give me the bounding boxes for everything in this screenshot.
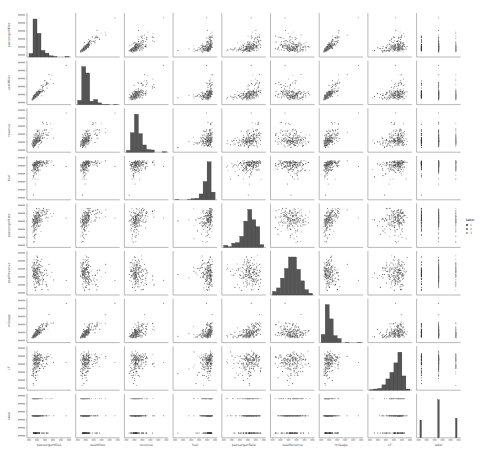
histogram-bar [142, 145, 146, 152]
histogram-bar [374, 389, 378, 390]
subplot [319, 13, 363, 57]
subplot [18, 394, 71, 441]
histogram-bar [37, 33, 41, 57]
x-axis-label: passengerRate [232, 443, 256, 447]
subplot [76, 108, 120, 152]
x-axis-label: revenue [140, 443, 153, 447]
subplot [319, 346, 363, 390]
histogram-bar [236, 243, 240, 248]
subplot [124, 346, 168, 390]
histogram-bar [277, 288, 281, 295]
y-axis-label: passengerMiles [7, 22, 11, 47]
histogram-bar [305, 290, 309, 295]
histogram-bar [207, 162, 211, 200]
subplot [271, 156, 315, 200]
y-axis-label: mileage [7, 314, 11, 327]
histogram-bar [398, 352, 402, 390]
histogram-bar [49, 56, 53, 57]
subplot [319, 61, 363, 105]
subplot [76, 299, 120, 343]
subplot [76, 61, 120, 105]
histogram-bar [203, 182, 207, 200]
subplot [319, 203, 363, 247]
subplot [417, 108, 461, 152]
y-axis-label: seatMiles [7, 75, 11, 90]
subplot [173, 299, 217, 343]
subplot [173, 61, 217, 105]
histogram-bar [329, 319, 333, 343]
subplot [18, 156, 71, 200]
histogram-bar [94, 99, 98, 104]
histogram-bar [130, 133, 134, 152]
subplot [368, 13, 412, 57]
histogram-bar [244, 221, 248, 247]
x-axis-label: passengerMiles [37, 443, 62, 447]
histogram-bar [134, 114, 138, 152]
subplot [271, 108, 315, 152]
subplot [173, 394, 217, 441]
y-axis-label: label [7, 412, 11, 420]
subplot [76, 251, 120, 295]
subplot [319, 251, 363, 295]
x-axis-label: seatRevenue [282, 443, 303, 447]
subplot [18, 299, 71, 343]
histogram-bar [333, 336, 337, 343]
subplot [417, 394, 461, 441]
subplot [222, 61, 266, 105]
histogram-bar [232, 243, 236, 247]
subplot [368, 203, 412, 247]
histogram-bar [297, 269, 301, 295]
histogram-bar [126, 150, 130, 152]
subplot [319, 108, 363, 152]
histogram-bar [240, 236, 244, 247]
subplot [222, 13, 266, 57]
subplot [319, 299, 363, 343]
histogram-bar [394, 363, 398, 390]
subplot [124, 394, 168, 441]
subplot [222, 156, 266, 200]
histogram-bar [224, 245, 228, 247]
subplot [417, 61, 461, 105]
histogram-bar [199, 194, 203, 200]
subplot [124, 156, 168, 200]
subplot [222, 251, 266, 295]
subplot [76, 346, 120, 390]
y-axis-label: seatRevenue [7, 263, 11, 284]
subplot [271, 203, 315, 247]
histogram-bar [321, 334, 325, 342]
x-axis-label: fuel [192, 443, 198, 447]
legend: label 1 2 3 [466, 218, 474, 235]
y-axis-label: passengerRate [7, 213, 11, 237]
histogram-bar [309, 293, 313, 295]
subplot [18, 108, 71, 152]
subplot [18, 61, 71, 105]
subplot [18, 13, 71, 57]
histogram-bar [252, 220, 256, 248]
histogram-bar [438, 400, 440, 438]
subplot [368, 251, 412, 295]
subplot [417, 13, 461, 57]
subplot [18, 203, 71, 247]
histogram-bar [260, 245, 264, 248]
subplot [319, 394, 363, 441]
subplot [18, 346, 71, 390]
y-axis-label: revenue [7, 124, 11, 137]
x-axis-label: label [435, 443, 443, 447]
histogram-bar [33, 19, 37, 57]
subplot [271, 13, 315, 57]
subplot [271, 346, 315, 390]
subplot [271, 299, 315, 343]
subplot [124, 299, 168, 343]
histogram-bar [289, 257, 293, 295]
subplot [417, 251, 461, 295]
y-axis-label: fuel [7, 175, 11, 181]
subplot [417, 156, 461, 200]
subplot [173, 156, 217, 200]
histogram-bar [195, 198, 199, 199]
histogram-bar [370, 390, 374, 391]
subplot [271, 394, 315, 441]
subplot [368, 299, 412, 343]
subplot [76, 394, 120, 441]
histogram-bar [86, 73, 90, 105]
legend-entry: 3 [466, 231, 474, 235]
